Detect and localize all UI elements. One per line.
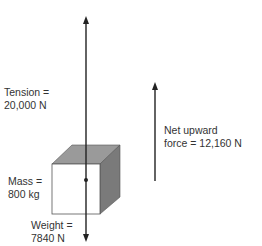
cube-front-face [52, 164, 100, 214]
free-body-diagram [0, 0, 262, 246]
net-force-label-line1: Net upward [164, 124, 242, 137]
tension-label: Tension = 20,000 N [4, 86, 49, 112]
weight-label-line1: Weight = [31, 219, 73, 232]
center-of-mass-dot [84, 178, 88, 182]
net-force-label: Net upward force = 12,160 N [164, 124, 242, 150]
net-force-arrowhead-icon [152, 82, 158, 90]
mass-label: Mass = 800 kg [8, 175, 42, 201]
tension-label-line1: Tension = [4, 86, 49, 99]
net-force-label-line2: force = 12,160 N [164, 137, 242, 150]
tension-label-line2: 20,000 N [4, 99, 49, 112]
weight-arrowhead-icon [83, 234, 89, 242]
mass-label-line1: Mass = [8, 175, 42, 188]
mass-label-line2: 800 kg [8, 188, 42, 201]
weight-label: Weight = 7840 N [31, 219, 73, 245]
tension-arrowhead-icon [83, 16, 89, 24]
weight-label-line2: 7840 N [31, 232, 73, 245]
